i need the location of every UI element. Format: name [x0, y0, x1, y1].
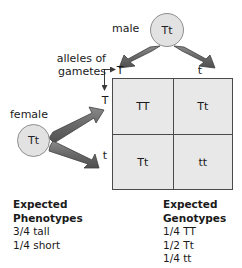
expected-genotypes-heading-line-1: Expected: [163, 198, 226, 212]
female-gamete-allele-1: T: [99, 94, 111, 107]
gametes-caption-line-2: gametes: [34, 65, 106, 78]
female-gamete-T-arrow: [49, 107, 104, 143]
expected-genotypes-item-3: 1/4 tt: [163, 252, 226, 266]
punnett-cell-1-1: TT: [113, 79, 173, 134]
expected-phenotypes-block: Expected Phenotypes 3/4 tall 1/4 short: [13, 198, 83, 252]
female-parent-label: female: [10, 108, 48, 121]
female-gamete-t-arrow: [49, 141, 99, 168]
punnett-square-grid: TT Tt Tt tt: [112, 78, 233, 190]
punnett-cell-2-1: Tt: [113, 134, 173, 189]
male-gamete-allele-2: t: [194, 64, 206, 77]
expected-genotypes-block: Expected Genotypes 1/4 TT 1/2 Tt 1/4 tt: [163, 198, 226, 266]
gametes-caption: alleles of gametes: [34, 52, 106, 78]
punnett-square-diagram: male Tt female Tt alleles of gametes T t…: [0, 0, 242, 268]
male-parent-label: male: [112, 22, 139, 35]
expected-genotypes-heading-line-2: Genotypes: [163, 212, 226, 226]
expected-phenotypes-item-1: 3/4 tall: [13, 225, 83, 239]
expected-genotypes-item-2: 1/2 Tt: [163, 239, 226, 253]
female-parent-genotype-circle: Tt: [17, 124, 50, 157]
female-parent-genotype-text: Tt: [28, 134, 39, 147]
male-parent-genotype-circle: Tt: [150, 13, 184, 47]
female-gamete-allele-2: t: [99, 149, 111, 162]
expected-genotypes-item-1: 1/4 TT: [163, 225, 226, 239]
punnett-cell-2-2: tt: [173, 134, 233, 189]
gametes-caption-line-1: alleles of: [34, 52, 106, 65]
expected-phenotypes-item-2: 1/4 short: [13, 239, 83, 253]
punnett-cell-1-2: Tt: [173, 79, 233, 134]
expected-phenotypes-heading-line-2: Phenotypes: [13, 212, 83, 226]
male-gamete-allele-1: T: [114, 64, 126, 77]
male-parent-genotype-text: Tt: [161, 24, 172, 37]
expected-phenotypes-heading-line-1: Expected: [13, 198, 83, 212]
